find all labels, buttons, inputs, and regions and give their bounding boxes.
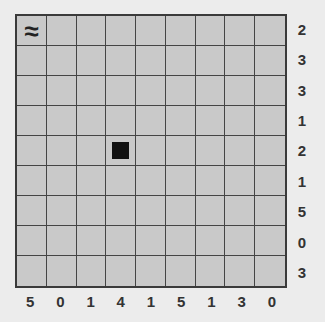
board-cell[interactable] bbox=[136, 226, 166, 256]
board-cell[interactable] bbox=[196, 226, 226, 256]
board-cell[interactable] bbox=[136, 46, 166, 76]
board-cell[interactable] bbox=[196, 46, 226, 76]
board-cell[interactable] bbox=[255, 226, 285, 256]
column-clue: 1 bbox=[75, 288, 105, 314]
board-cell[interactable] bbox=[77, 226, 107, 256]
board-cell[interactable] bbox=[106, 256, 136, 286]
row-clue: 1 bbox=[292, 166, 312, 196]
column-clue: 1 bbox=[196, 288, 226, 314]
board-cell[interactable] bbox=[47, 256, 77, 286]
board-cell[interactable] bbox=[106, 106, 136, 136]
board-cell[interactable] bbox=[136, 16, 166, 46]
board-cell[interactable] bbox=[47, 196, 77, 226]
board-cell[interactable] bbox=[136, 136, 166, 166]
board-cell[interactable] bbox=[17, 226, 47, 256]
board-cell[interactable] bbox=[136, 106, 166, 136]
board-cell[interactable] bbox=[106, 136, 136, 166]
puzzle-board: ≈ bbox=[15, 14, 287, 288]
board-cell[interactable] bbox=[225, 76, 255, 106]
row-clue: 3 bbox=[292, 75, 312, 105]
board-cell[interactable] bbox=[255, 106, 285, 136]
board-cell[interactable] bbox=[17, 136, 47, 166]
board-cell[interactable] bbox=[136, 256, 166, 286]
board-cell[interactable] bbox=[77, 16, 107, 46]
board-cell[interactable] bbox=[77, 46, 107, 76]
board-cell[interactable] bbox=[196, 196, 226, 226]
board-cell[interactable] bbox=[255, 136, 285, 166]
board-cell[interactable] bbox=[166, 106, 196, 136]
water-icon: ≈ bbox=[24, 18, 38, 44]
board-cell[interactable] bbox=[77, 196, 107, 226]
board-cell[interactable] bbox=[196, 106, 226, 136]
board-cell[interactable] bbox=[17, 76, 47, 106]
board-cell[interactable] bbox=[17, 256, 47, 286]
board-cell[interactable] bbox=[106, 16, 136, 46]
row-clue: 3 bbox=[292, 44, 312, 74]
board-cell[interactable] bbox=[225, 46, 255, 76]
board-cell[interactable] bbox=[166, 196, 196, 226]
board-cell[interactable] bbox=[77, 106, 107, 136]
board-cell[interactable] bbox=[17, 46, 47, 76]
board-cell[interactable] bbox=[77, 76, 107, 106]
board-cell[interactable] bbox=[17, 196, 47, 226]
board-cell[interactable] bbox=[106, 226, 136, 256]
board-cell[interactable] bbox=[225, 256, 255, 286]
board-cell[interactable]: ≈ bbox=[17, 16, 47, 46]
board-cell[interactable] bbox=[166, 166, 196, 196]
board-cell[interactable] bbox=[106, 196, 136, 226]
board-cell[interactable] bbox=[47, 76, 77, 106]
board-cell[interactable] bbox=[196, 136, 226, 166]
board-cell[interactable] bbox=[17, 106, 47, 136]
board-cell[interactable] bbox=[196, 76, 226, 106]
board-cell[interactable] bbox=[136, 196, 166, 226]
board-cell[interactable] bbox=[225, 106, 255, 136]
board-cell[interactable] bbox=[225, 136, 255, 166]
board-cell[interactable] bbox=[136, 166, 166, 196]
board-cell[interactable] bbox=[255, 46, 285, 76]
column-clue: 4 bbox=[106, 288, 136, 314]
board-cell[interactable] bbox=[255, 16, 285, 46]
filled-block-icon bbox=[112, 142, 129, 159]
board-cell[interactable] bbox=[17, 166, 47, 196]
board-cell[interactable] bbox=[106, 46, 136, 76]
board-cell[interactable] bbox=[166, 226, 196, 256]
board-cell[interactable] bbox=[47, 226, 77, 256]
board-cell[interactable] bbox=[255, 166, 285, 196]
board-cell[interactable] bbox=[47, 166, 77, 196]
board-cell[interactable] bbox=[225, 196, 255, 226]
board-cell[interactable] bbox=[47, 46, 77, 76]
board-cell[interactable] bbox=[255, 196, 285, 226]
column-clue: 0 bbox=[45, 288, 75, 314]
board-cell[interactable] bbox=[166, 256, 196, 286]
board-cell[interactable] bbox=[196, 166, 226, 196]
board-cell[interactable] bbox=[77, 136, 107, 166]
row-clue: 5 bbox=[292, 197, 312, 227]
board-cell[interactable] bbox=[47, 136, 77, 166]
board-cell[interactable] bbox=[47, 106, 77, 136]
board-cell[interactable] bbox=[106, 166, 136, 196]
column-clue: 0 bbox=[257, 288, 287, 314]
board-cell[interactable] bbox=[196, 256, 226, 286]
board-cell[interactable] bbox=[47, 16, 77, 46]
column-clue: 1 bbox=[136, 288, 166, 314]
board-cell[interactable] bbox=[136, 76, 166, 106]
board-cell[interactable] bbox=[77, 256, 107, 286]
row-clue: 2 bbox=[292, 14, 312, 44]
board-cell[interactable] bbox=[166, 16, 196, 46]
board-cell[interactable] bbox=[166, 76, 196, 106]
row-clue: 3 bbox=[292, 258, 312, 288]
board-cell[interactable] bbox=[225, 166, 255, 196]
board-cell[interactable] bbox=[166, 136, 196, 166]
column-clue: 5 bbox=[166, 288, 196, 314]
board-cell[interactable] bbox=[196, 16, 226, 46]
board-cell[interactable] bbox=[255, 76, 285, 106]
board-cell[interactable] bbox=[77, 166, 107, 196]
board-cell[interactable] bbox=[166, 46, 196, 76]
board-cell[interactable] bbox=[225, 226, 255, 256]
board-cell[interactable] bbox=[225, 16, 255, 46]
column-clue: 5 bbox=[15, 288, 45, 314]
row-clue: 1 bbox=[292, 105, 312, 135]
board-cell[interactable] bbox=[255, 256, 285, 286]
board-cell[interactable] bbox=[106, 76, 136, 106]
column-clues: 501415130 bbox=[15, 288, 287, 314]
